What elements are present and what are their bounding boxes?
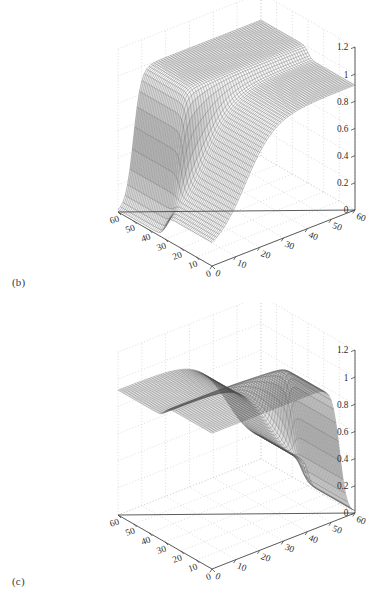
y-tick-label: 10	[236, 258, 249, 271]
x-tick-label: 50	[124, 222, 136, 235]
z-tick-label: 0.8	[337, 97, 349, 107]
y-tick-label: 60	[355, 211, 368, 224]
plot-canvas-b: 00.20.40.60.811.201020304050600102030405…	[0, 0, 389, 306]
x-tick-mark	[212, 266, 215, 269]
z-tick-label: 0	[344, 508, 349, 518]
x-tick-label: 60	[108, 516, 120, 529]
y-tick-label: 40	[307, 533, 320, 546]
y-tick-label: 50	[331, 220, 344, 233]
z-tick-label: 1	[344, 373, 349, 383]
y-tick-label: 50	[331, 523, 344, 536]
x-tick-label: 30	[155, 543, 167, 556]
y-tick-label: 40	[307, 230, 320, 243]
surface-plot-panel-c: 00.20.40.60.811.201020304050600102030405…	[0, 303, 389, 609]
y-tick-label: 20	[260, 551, 273, 564]
z-tick-label: 1	[344, 70, 349, 80]
x-tick-label: 10	[187, 258, 199, 271]
x-tick-label: 0	[205, 571, 213, 582]
x-tick-label: 40	[140, 534, 152, 547]
x-tick-label: 50	[124, 525, 136, 538]
x-tick-label: 10	[187, 561, 199, 574]
y-tick-mark	[210, 569, 212, 572]
y-tick-label: 30	[283, 542, 296, 555]
z-tick-label: 0.2	[337, 178, 349, 188]
z-tick-label: 0.8	[337, 400, 349, 410]
z-tick-label: 0.6	[337, 427, 349, 437]
y-tick-mark	[210, 266, 212, 269]
x-tick-label: 0	[205, 268, 213, 279]
x-tick-label: 60	[108, 213, 120, 226]
z-tick-label: 0.4	[337, 151, 349, 161]
plot-canvas-c: 00.20.40.60.811.201020304050600102030405…	[0, 303, 389, 609]
x-tick-mark	[212, 569, 215, 572]
surface-plot-panel-b: 00.20.40.60.811.201020304050600102030405…	[0, 0, 389, 306]
y-tick-label: 0	[214, 268, 222, 279]
y-tick-label: 10	[236, 561, 249, 574]
y-tick-label: 60	[355, 514, 368, 527]
z-tick-label: 1.2	[337, 345, 349, 355]
z-tick-label: 0.2	[337, 481, 349, 491]
panel-label-b: (b)	[12, 276, 25, 288]
x-tick-label: 20	[171, 552, 183, 565]
figure-container: 00.20.40.60.811.201020304050600102030405…	[0, 0, 389, 613]
y-tick-label: 20	[260, 248, 273, 261]
panel-label-c: (c)	[12, 575, 25, 587]
z-tick-label: 1.2	[337, 42, 349, 52]
z-tick-label: 0.6	[337, 124, 349, 134]
x-tick-label: 40	[140, 231, 152, 244]
z-tick-label: 0	[344, 205, 349, 215]
y-tick-label: 30	[283, 239, 296, 252]
z-tick-label: 0.4	[337, 454, 349, 464]
x-tick-label: 30	[155, 240, 167, 253]
y-tick-label: 0	[214, 571, 222, 582]
x-tick-label: 20	[171, 249, 183, 262]
